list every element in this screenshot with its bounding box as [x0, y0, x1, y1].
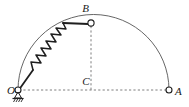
joint-marker-b — [88, 20, 94, 26]
semicircular-arc — [18, 14, 169, 90]
pin-support-triangle — [15, 92, 22, 98]
coil-spring — [31, 23, 66, 70]
figure-canvas: B O C A — [0, 0, 189, 107]
label-b: B — [82, 2, 89, 14]
mechanics-figure: B O C A — [0, 0, 189, 107]
label-o: O — [7, 84, 15, 96]
label-a: A — [174, 85, 182, 97]
label-c: C — [82, 75, 90, 87]
rod-segment-upper — [63, 23, 89, 24]
joint-marker-a — [166, 87, 172, 93]
rod-segment-lower — [20, 70, 34, 89]
